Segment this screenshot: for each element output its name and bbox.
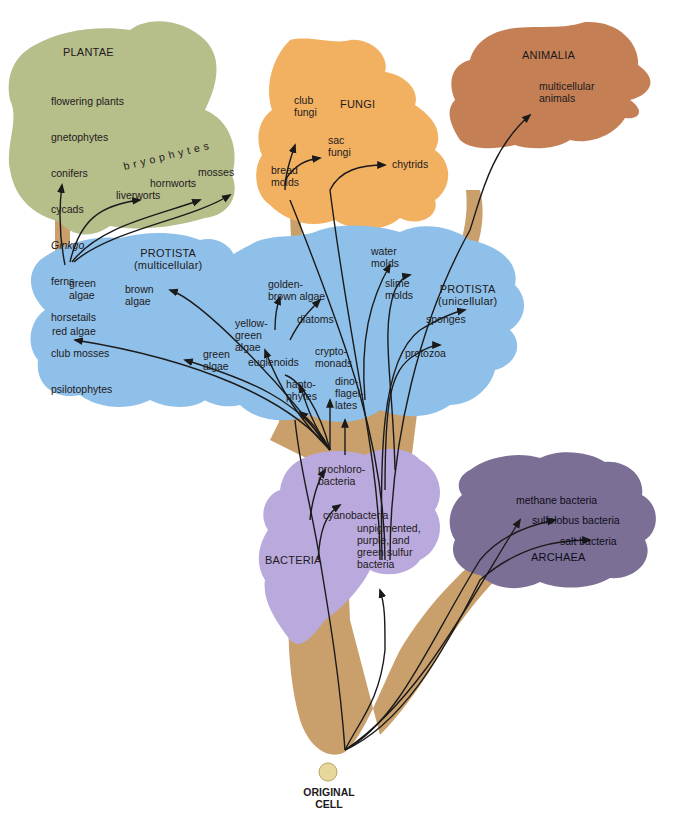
plantae-title: PLANTAE (63, 46, 114, 58)
original-cell-label: ORIGINAL CELL (303, 786, 355, 810)
protista-unicellular-title: PROTISTA (unicellular) (438, 283, 497, 307)
bacteria-title: BACTERIA (265, 554, 322, 566)
plant-horsetails: horsetails (51, 311, 124, 323)
protista-multicellular-title: PROTISTA (multicellular) (134, 247, 202, 271)
plantae-list: flowering plants gnetophytes conifers cy… (51, 71, 124, 407)
green-algae-multi-label: green algae (69, 277, 96, 301)
plant-cycads: cycads (51, 203, 124, 215)
diatoms-label: diatoms (297, 313, 334, 325)
sponges-label: sponges (426, 313, 466, 325)
slime-molds-label: slime molds (385, 277, 413, 301)
red-algae-label: red algae (52, 325, 96, 337)
methane-bacteria-label: methane bacteria (516, 494, 597, 506)
hornworts-label: hornworts (150, 177, 196, 189)
unpigmented-purple-green-sulfur-label: unpigmented, purple, and green sulfur ba… (357, 522, 421, 570)
sac-fungi-label: sac fungi (328, 134, 351, 158)
chytrids-label: chytrids (392, 158, 428, 170)
animalia-title: ANIMALIA (522, 49, 575, 61)
fungi-blob (256, 39, 448, 230)
plant-flowering: flowering plants (51, 95, 124, 107)
cyanobacteria-label: cyanobacteria (323, 509, 388, 521)
plant-psilotophytes: psilotophytes (51, 383, 124, 395)
bread-molds-label: bread molds (271, 164, 299, 188)
brown-algae-label: brown algae (125, 283, 154, 307)
green-algae-uni-label: green algae (203, 348, 230, 372)
prochlorobacteria-label: prochloro- bacteria (318, 463, 365, 487)
euglenoids-label: euglenoids (248, 356, 299, 368)
mosses-label: mosses (198, 166, 234, 178)
golden-brown-algae-label: golden- brown algae (268, 278, 325, 302)
club-fungi-label: club fungi (294, 94, 317, 118)
plant-conifers: conifers (51, 167, 124, 179)
archaea-title: ARCHAEA (531, 551, 586, 563)
salt-bacteria-label: salt bacteria (560, 535, 617, 547)
fungi-title: FUNGI (340, 98, 375, 110)
sulfolobus-bacteria-label: sulfolobus bacteria (532, 514, 620, 526)
water-molds-label: water molds (371, 245, 399, 269)
yellow-green-algae-label: yellow- green algae (235, 317, 268, 353)
protozoa-label: protozoa (405, 347, 446, 359)
original-cell-icon (319, 763, 337, 781)
dinoflagellates-label: dino- flagel- lates (335, 375, 364, 411)
plant-gnetophytes: gnetophytes (51, 131, 124, 143)
plant-club-mosses: club mosses (51, 347, 124, 359)
multicellular-animals-label: multicellular animals (539, 80, 594, 104)
haptophytes-label: hapto- phytes (286, 378, 317, 402)
cryptomonads-label: crypto- monads (315, 345, 352, 369)
plant-ginkgo: Ginkgo (51, 239, 124, 251)
liverworts-label: liverworts (116, 189, 160, 201)
